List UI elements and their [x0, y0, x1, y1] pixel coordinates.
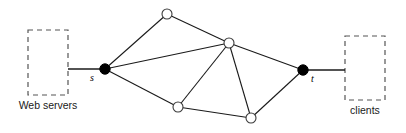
node-v4 — [246, 113, 256, 123]
edges-layer — [105, 14, 303, 118]
node-v1 — [162, 9, 172, 19]
group-label-web-servers: Web servers — [14, 100, 82, 111]
node-t — [298, 65, 308, 75]
edge-v3-v4 — [178, 107, 251, 118]
node-v2 — [224, 38, 234, 48]
network-flow-diagram: Web serversclientsst — [0, 0, 406, 133]
edge-s-v3 — [105, 69, 178, 107]
node-label-s: s — [90, 73, 94, 83]
edge-v1-v2 — [167, 14, 229, 43]
node-s — [100, 64, 110, 74]
group-boxes-layer — [28, 30, 385, 100]
node-v3 — [173, 102, 183, 112]
group-box-clients — [345, 36, 385, 100]
edge-s-v1 — [105, 14, 167, 69]
edge-s-v2 — [105, 43, 229, 69]
group-box-web-servers — [28, 30, 68, 95]
edge-v2-v4 — [229, 43, 251, 118]
edge-v2-t — [229, 43, 303, 70]
group-label-clients: clients — [341, 105, 389, 116]
nodes-layer — [100, 9, 308, 123]
node-label-t: t — [311, 74, 314, 84]
edge-v4-t — [251, 70, 303, 118]
